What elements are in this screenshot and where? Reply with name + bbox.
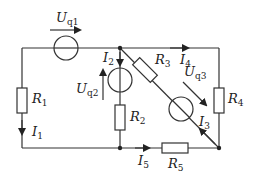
svg-text:R3: R3 (154, 52, 171, 69)
resistor-r1: R1 (17, 88, 48, 113)
circuit-diagram: Uq1 Uq2 Uq3 R1 R2 R3 R4 R5 I (0, 0, 255, 177)
current-i2: I2 (102, 50, 120, 67)
svg-text:I5: I5 (137, 153, 149, 170)
svg-text:I3: I3 (198, 114, 210, 131)
resistor-r5: R5 (162, 143, 188, 173)
voltage-source-uq1: Uq1 (50, 10, 80, 60)
voltage-source-uq3: Uq3 (169, 64, 207, 121)
voltage-source-uq2: Uq2 (76, 68, 132, 100)
current-i4: I4 (170, 48, 191, 69)
node-bottom-right (217, 146, 221, 150)
svg-text:R2: R2 (129, 109, 146, 126)
svg-text:I1: I1 (31, 124, 43, 141)
svg-text:R5: R5 (167, 156, 184, 173)
svg-text:R1: R1 (31, 91, 48, 108)
resistor-r3: R3 (133, 52, 171, 82)
resistor-r4: R4 (214, 88, 244, 113)
svg-text:I2: I2 (102, 50, 114, 67)
svg-text:I4: I4 (179, 52, 191, 69)
current-i1: I1 (22, 120, 43, 141)
svg-text:Uq1: Uq1 (56, 10, 78, 27)
svg-text:Uq2: Uq2 (76, 81, 98, 98)
svg-text:R4: R4 (227, 91, 244, 108)
node-bottom-mid (118, 146, 122, 150)
current-i3: I3 (198, 114, 215, 144)
resistor-r2: R2 (115, 105, 146, 130)
node-top (118, 46, 122, 50)
current-i5: I5 (135, 148, 149, 170)
